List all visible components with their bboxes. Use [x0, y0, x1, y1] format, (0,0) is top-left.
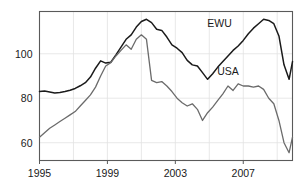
x-axis-label-2003: 2003	[164, 167, 188, 179]
line-chart: 1995199920032007 6080100 EWUUSA	[0, 0, 303, 191]
series-annotation-ewu: EWU	[207, 17, 232, 29]
x-tick-labels: 1995199920032007	[28, 167, 255, 179]
x-axis-label-1995: 1995	[28, 167, 52, 179]
data-series-group	[40, 19, 293, 152]
x-axis-label-2007: 2007	[232, 167, 256, 179]
series-annotation-usa: USA	[217, 65, 239, 77]
y-axis-label-80: 80	[21, 92, 33, 104]
x-axis-label-1999: 1999	[96, 167, 120, 179]
series-annotations: EWUUSA	[207, 17, 239, 77]
chart-container: 1995199920032007 6080100 EWUUSA	[0, 0, 303, 191]
y-axis-label-100: 100	[15, 48, 33, 60]
series-line-usa	[40, 35, 293, 153]
series-line-ewu	[40, 19, 293, 93]
y-tick-labels: 6080100	[15, 48, 33, 149]
y-axis-label-60: 60	[21, 137, 33, 149]
